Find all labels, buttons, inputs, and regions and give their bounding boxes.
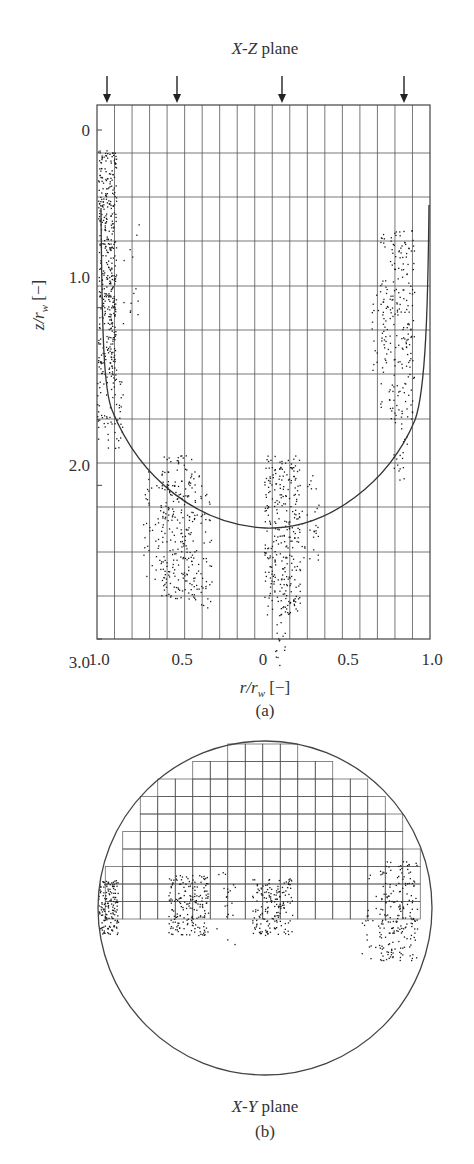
x-axis-label: r/rw [−]	[240, 678, 290, 699]
x-tick-0: 1.0	[88, 650, 109, 669]
y-tick-2: 2.0	[69, 456, 90, 475]
y-axis-label: z/rw [−]	[29, 280, 50, 331]
xy-plot	[98, 744, 420, 961]
x-tick-4: 1.0	[421, 650, 442, 669]
panel-a-title: X-Z plane	[231, 39, 299, 58]
panel-b-title: X-Y plane	[231, 1097, 299, 1116]
arrow-markers	[103, 76, 408, 103]
figure: X-Z plane 0 1.0 2.0 3.0 1.0 0.5 0 0.5 1.…	[0, 0, 474, 1164]
y-tick-3: 3.0	[69, 653, 90, 672]
x-tick-3: 0.5	[337, 650, 358, 669]
y-tick-1: 1.0	[69, 268, 90, 287]
xz-plot	[97, 105, 430, 666]
x-tick-1: 0.5	[171, 650, 192, 669]
x-tick-2: 0	[259, 650, 268, 669]
vessel-outline	[98, 741, 432, 1075]
panel-a-caption: (a)	[256, 701, 275, 720]
panel-b-caption: (b)	[255, 1122, 275, 1141]
y-tick-0: 0	[82, 121, 91, 140]
